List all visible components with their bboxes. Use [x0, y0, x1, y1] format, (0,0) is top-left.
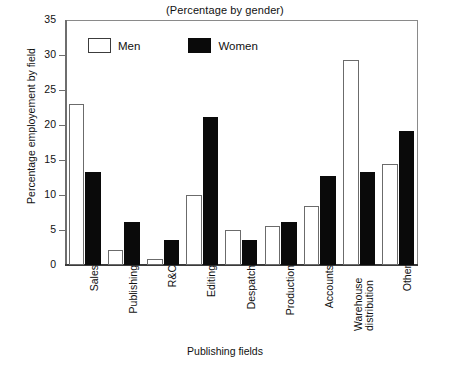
- bar-group: [104, 20, 143, 265]
- bar-group: [300, 20, 339, 265]
- bar-women[interactable]: [164, 240, 180, 265]
- bar-women[interactable]: [203, 117, 219, 265]
- x-axis-tick-label-line: distribution: [364, 265, 375, 331]
- x-axis-tick-label: Editing: [206, 265, 217, 297]
- bar-women[interactable]: [399, 131, 415, 265]
- bar-group: [222, 20, 261, 265]
- bar-group: [65, 20, 104, 265]
- bar-group: [379, 20, 418, 265]
- x-axis-tick-label: Sales: [89, 265, 100, 291]
- bar-women[interactable]: [320, 176, 336, 265]
- bar-group: [340, 20, 379, 265]
- chart-figure: (Percentage by gender) 05101520253035 Pe…: [0, 0, 450, 369]
- bar-women[interactable]: [242, 240, 258, 265]
- x-axis-title: Publishing fields: [0, 345, 450, 357]
- bar-women[interactable]: [281, 222, 297, 265]
- bar-group: [183, 20, 222, 265]
- chart-title: (Percentage by gender): [0, 4, 450, 16]
- bar-men[interactable]: [343, 60, 359, 265]
- bar-women[interactable]: [85, 172, 101, 265]
- bar-men[interactable]: [304, 206, 320, 265]
- bar-group: [261, 20, 300, 265]
- bar-men[interactable]: [69, 104, 85, 265]
- bar-groups: [65, 20, 418, 265]
- x-axis-tick-label: Despatch: [246, 265, 257, 309]
- bar-men[interactable]: [108, 250, 124, 265]
- x-axis-tick-label: Production: [285, 265, 296, 315]
- bar-men[interactable]: [265, 226, 281, 265]
- bar-women[interactable]: [360, 172, 376, 265]
- bar-group: [143, 20, 182, 265]
- bar-men[interactable]: [186, 195, 202, 265]
- bar-men[interactable]: [382, 164, 398, 266]
- x-axis-tick-label: Publishing: [128, 265, 139, 313]
- bar-men[interactable]: [225, 230, 241, 265]
- x-axis-tick-label: Other: [402, 265, 413, 291]
- x-axis-tick-label: Accounts: [324, 265, 335, 308]
- x-axis-tick-labels: SalesPublishingR&CEditingDespatchProduct…: [65, 265, 418, 335]
- x-axis-tick-label: Warehousedistribution: [353, 265, 375, 331]
- bar-women[interactable]: [124, 222, 140, 265]
- y-axis-tick-label: 0: [28, 259, 56, 269]
- y-axis-title: Percentage employement by field: [25, 11, 37, 241]
- x-axis-tick-label: R&C: [167, 265, 178, 287]
